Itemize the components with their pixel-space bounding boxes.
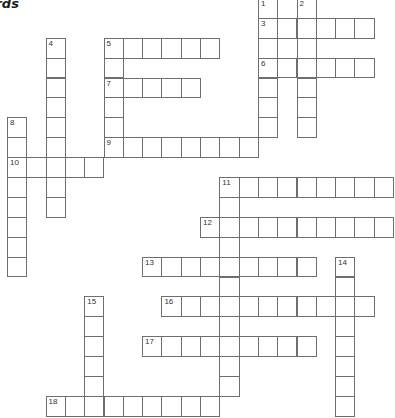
crossword-cell[interactable] <box>161 396 181 417</box>
crossword-cell[interactable] <box>297 58 317 79</box>
crossword-cell[interactable] <box>277 58 297 79</box>
crossword-cell[interactable] <box>46 177 66 198</box>
crossword-cell[interactable] <box>258 177 278 198</box>
crossword-cell[interactable] <box>181 257 201 278</box>
crossword-cell[interactable] <box>316 58 336 79</box>
crossword-cell[interactable] <box>104 97 124 118</box>
crossword-cell[interactable] <box>161 257 181 278</box>
crossword-cell[interactable] <box>219 137 239 158</box>
crossword-cell[interactable] <box>123 137 143 158</box>
crossword-cell[interactable] <box>181 296 201 317</box>
crossword-cell[interactable]: 16 <box>161 296 181 317</box>
crossword-cell[interactable] <box>200 137 220 158</box>
crossword-cell[interactable] <box>84 396 104 417</box>
crossword-cell[interactable] <box>335 277 355 298</box>
crossword-cell[interactable] <box>219 217 239 238</box>
crossword-cell[interactable] <box>142 396 162 417</box>
crossword-cell[interactable]: 2 <box>297 0 317 19</box>
crossword-cell[interactable]: 12 <box>200 217 220 238</box>
crossword-cell[interactable] <box>354 18 374 39</box>
crossword-cell[interactable]: 3 <box>258 18 278 39</box>
crossword-cell[interactable] <box>335 336 355 357</box>
crossword-cell[interactable] <box>181 396 201 417</box>
crossword-cell[interactable] <box>84 376 104 397</box>
crossword-cell[interactable] <box>161 38 181 59</box>
crossword-cell[interactable] <box>123 396 143 417</box>
crossword-cell[interactable] <box>181 137 201 158</box>
crossword-cell[interactable] <box>200 296 220 317</box>
crossword-cell[interactable] <box>258 38 278 59</box>
crossword-cell[interactable] <box>219 316 239 337</box>
crossword-cell[interactable] <box>219 336 239 357</box>
crossword-cell[interactable] <box>219 257 239 278</box>
crossword-cell[interactable] <box>142 78 162 99</box>
crossword-cell[interactable] <box>142 38 162 59</box>
crossword-cell[interactable] <box>84 336 104 357</box>
crossword-cell[interactable] <box>84 157 104 178</box>
crossword-cell[interactable] <box>354 217 374 238</box>
crossword-cell[interactable] <box>219 237 239 258</box>
crossword-cell[interactable] <box>239 296 259 317</box>
crossword-cell[interactable] <box>219 356 239 377</box>
crossword-cell[interactable]: 7 <box>104 78 124 99</box>
crossword-cell[interactable]: 13 <box>142 257 162 278</box>
crossword-cell[interactable] <box>316 217 336 238</box>
crossword-cell[interactable] <box>239 217 259 238</box>
crossword-cell[interactable] <box>297 336 317 357</box>
crossword-cell[interactable] <box>258 336 278 357</box>
crossword-cell[interactable] <box>239 257 259 278</box>
crossword-cell[interactable] <box>219 277 239 298</box>
crossword-cell[interactable] <box>219 296 239 317</box>
crossword-cell[interactable] <box>297 257 317 278</box>
crossword-cell[interactable] <box>239 137 259 158</box>
crossword-cell[interactable] <box>335 396 355 417</box>
crossword-cell[interactable] <box>219 376 239 397</box>
crossword-cell[interactable] <box>46 78 66 99</box>
crossword-cell[interactable] <box>297 296 317 317</box>
crossword-cell[interactable] <box>316 177 336 198</box>
crossword-cell[interactable] <box>46 197 66 218</box>
crossword-cell[interactable] <box>277 217 297 238</box>
crossword-cell[interactable] <box>239 177 259 198</box>
crossword-cell[interactable] <box>123 38 143 59</box>
crossword-cell[interactable] <box>297 177 317 198</box>
crossword-cell[interactable] <box>7 237 27 258</box>
crossword-cell[interactable]: 4 <box>46 38 66 59</box>
crossword-cell[interactable] <box>297 97 317 118</box>
crossword-cell[interactable] <box>46 137 66 158</box>
crossword-cell[interactable] <box>7 217 27 238</box>
crossword-cell[interactable] <box>46 157 66 178</box>
crossword-cell[interactable] <box>335 296 355 317</box>
crossword-cell[interactable] <box>335 217 355 238</box>
crossword-cell[interactable] <box>26 157 46 178</box>
crossword-cell[interactable] <box>161 137 181 158</box>
crossword-cell[interactable] <box>354 177 374 198</box>
crossword-cell[interactable]: 6 <box>258 58 278 79</box>
crossword-cell[interactable] <box>258 117 278 138</box>
crossword-cell[interactable] <box>219 197 239 218</box>
crossword-cell[interactable] <box>239 336 259 357</box>
crossword-cell[interactable] <box>181 38 201 59</box>
crossword-cell[interactable] <box>7 177 27 198</box>
crossword-cell[interactable]: 11 <box>219 177 239 198</box>
crossword-cell[interactable] <box>200 336 220 357</box>
crossword-cell[interactable] <box>277 296 297 317</box>
crossword-cell[interactable] <box>65 396 85 417</box>
crossword-cell[interactable] <box>161 78 181 99</box>
crossword-cell[interactable] <box>46 97 66 118</box>
crossword-cell[interactable] <box>335 58 355 79</box>
crossword-cell[interactable] <box>277 336 297 357</box>
crossword-cell[interactable] <box>161 336 181 357</box>
crossword-cell[interactable] <box>316 296 336 317</box>
crossword-cell[interactable] <box>297 38 317 59</box>
crossword-cell[interactable]: 15 <box>84 296 104 317</box>
crossword-cell[interactable] <box>258 296 278 317</box>
crossword-cell[interactable]: 18 <box>46 396 66 417</box>
crossword-cell[interactable] <box>277 257 297 278</box>
crossword-cell[interactable] <box>258 257 278 278</box>
crossword-cell[interactable] <box>7 137 27 158</box>
crossword-cell[interactable] <box>104 396 124 417</box>
crossword-cell[interactable] <box>316 18 336 39</box>
crossword-cell[interactable] <box>297 18 317 39</box>
crossword-cell[interactable] <box>297 117 317 138</box>
